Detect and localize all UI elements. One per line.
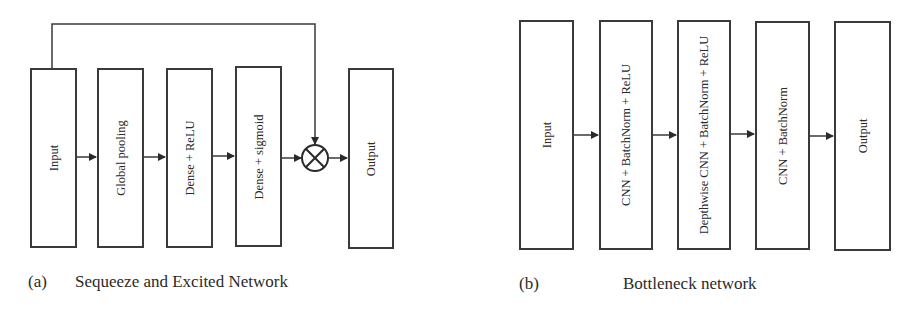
arrows-b <box>574 134 833 136</box>
multiply-icon <box>302 145 328 171</box>
connectors <box>0 0 913 320</box>
arrows-a <box>52 24 347 158</box>
skip-connection <box>52 24 315 144</box>
